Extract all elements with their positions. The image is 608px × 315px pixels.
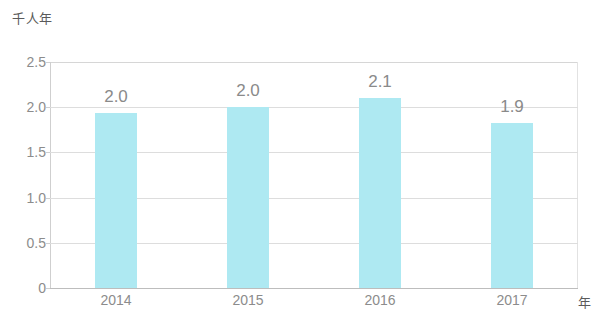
bar-value-label: 1.9: [500, 97, 524, 117]
y-tick-label: 1.5: [12, 144, 46, 160]
gridline: [50, 107, 578, 108]
y-axis-line: [50, 62, 51, 289]
bar: [227, 107, 269, 288]
x-tick-label: 2017: [496, 292, 527, 308]
x-tick-label: 2015: [232, 292, 263, 308]
y-tick-label: 0: [12, 280, 46, 296]
x-tick-label: 2016: [364, 292, 395, 308]
bar: [491, 123, 533, 288]
x-axis-line: [50, 288, 578, 289]
plot-top-border: [50, 62, 578, 63]
plot-area: [50, 62, 578, 288]
y-tick-label: 0.5: [12, 235, 46, 251]
bar-value-label: 2.0: [236, 81, 260, 101]
y-tick-label: 2.5: [12, 54, 46, 70]
bar: [359, 98, 401, 288]
bar: [95, 113, 137, 288]
y-tick-label: 1.0: [12, 190, 46, 206]
x-axis-unit-label: 年: [578, 292, 591, 311]
bar-value-label: 2.1: [368, 72, 392, 92]
y-axis-unit-label: 千人年: [12, 8, 53, 27]
plot-right-border: [577, 62, 578, 289]
y-tick-label: 2.0: [12, 99, 46, 115]
x-tick-label: 2014: [100, 292, 131, 308]
bar-value-label: 2.0: [104, 87, 128, 107]
bar-chart-figure: 千人年 年 00.51.01.52.02.5 2014201520162017 …: [0, 0, 608, 315]
